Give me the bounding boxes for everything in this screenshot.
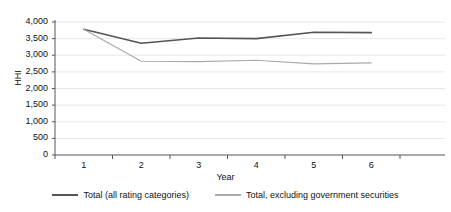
legend-label: Total, excluding government securities bbox=[246, 190, 399, 200]
x-axis-tick-label: 2 bbox=[131, 160, 151, 170]
x-axis-tick-label: 3 bbox=[189, 160, 209, 170]
series-line bbox=[84, 29, 372, 64]
x-axis-tick-label: 5 bbox=[304, 160, 324, 170]
series-line bbox=[84, 29, 372, 43]
x-axis-tick-label: 1 bbox=[74, 160, 94, 170]
legend-label: Total (all rating categories) bbox=[83, 190, 189, 200]
chart-legend: Total (all rating categories)Total, excl… bbox=[0, 186, 451, 204]
x-axis-title: Year bbox=[0, 172, 451, 182]
legend-swatch bbox=[52, 194, 78, 196]
x-axis-tick-label: 4 bbox=[246, 160, 266, 170]
legend-swatch bbox=[215, 194, 241, 196]
x-axis-tick-label: 6 bbox=[361, 160, 381, 170]
legend-item[interactable]: Total, excluding government securities bbox=[215, 190, 399, 200]
line-chart: HHI 05001,0001,5002,0002,5003,0003,5004,… bbox=[0, 0, 451, 212]
legend-item[interactable]: Total (all rating categories) bbox=[52, 190, 189, 200]
